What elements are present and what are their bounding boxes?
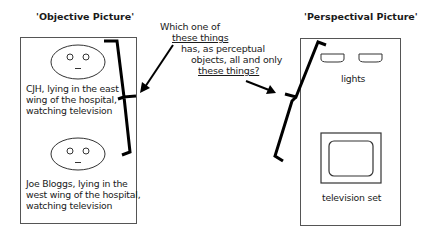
arrow-right-icon <box>246 81 276 94</box>
left-brace-icon <box>104 41 136 155</box>
lights-icon <box>321 54 382 62</box>
right-brace-icon <box>275 42 326 161</box>
face-icon-2 <box>51 138 105 170</box>
television-set-icon <box>321 133 381 183</box>
face-icon-1 <box>51 45 105 79</box>
diagram-graphics <box>0 0 421 237</box>
arrow-left-icon <box>140 45 173 93</box>
